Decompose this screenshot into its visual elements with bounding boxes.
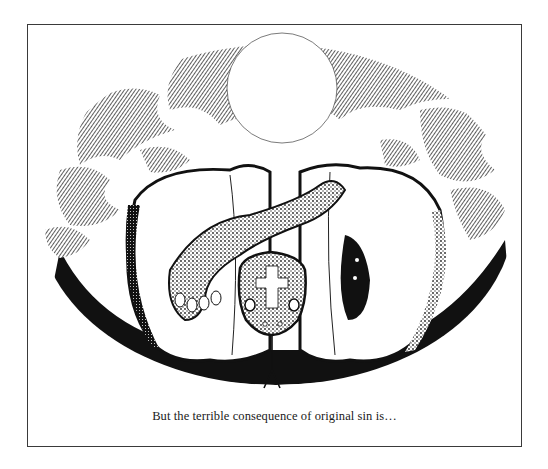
illustration xyxy=(0,0,548,469)
caption: But the terrible consequence of original… xyxy=(27,409,522,424)
moon xyxy=(227,33,337,143)
